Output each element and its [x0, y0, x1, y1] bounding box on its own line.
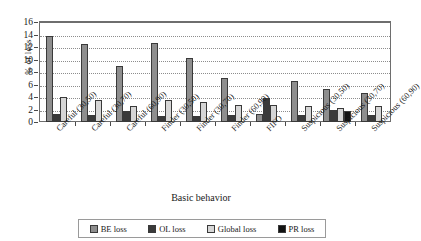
- bar: [256, 114, 263, 122]
- y-tick-mark: [34, 22, 38, 23]
- legend-label: OL loss: [159, 224, 185, 234]
- y-tick-mark: [34, 35, 38, 36]
- bar: [186, 58, 193, 122]
- y-tick-label: 10: [17, 55, 33, 65]
- y-tick-mark: [34, 72, 38, 73]
- y-axis-ticks: 0246810121416: [16, 15, 38, 128]
- x-axis-title: Basic behavior: [0, 192, 402, 203]
- y-tick-label: 4: [17, 92, 33, 102]
- bar: [330, 110, 337, 122]
- y-tick-mark: [34, 97, 38, 98]
- legend-swatch-icon: [90, 225, 98, 233]
- legend-item: PR loss: [278, 224, 315, 234]
- y-tick-mark: [34, 122, 38, 123]
- legend-item: Global loss: [207, 224, 257, 234]
- x-axis-labels: Careful (30,50)Careful (30,70)Careful (6…: [0, 124, 402, 190]
- y-tick-mark: [34, 60, 38, 61]
- legend-swatch-icon: [278, 225, 286, 233]
- bar-group: [40, 22, 75, 122]
- legend-label: Global loss: [218, 224, 257, 234]
- y-tick-mark: [34, 47, 38, 48]
- legend-swatch-icon: [148, 225, 156, 233]
- y-tick-label: 2: [17, 105, 33, 115]
- y-tick-label: 16: [17, 17, 33, 27]
- bar-group: [285, 22, 320, 122]
- y-tick-label: 8: [17, 67, 33, 77]
- legend-label: BE loss: [101, 224, 127, 234]
- y-tick-label: 12: [17, 42, 33, 52]
- y-tick-mark: [34, 110, 38, 111]
- legend-label: PR loss: [289, 224, 315, 234]
- y-tick-label: 6: [17, 80, 33, 90]
- y-tick-label: 14: [17, 30, 33, 40]
- bar: [291, 81, 298, 122]
- bar: [46, 36, 53, 122]
- y-tick-mark: [34, 85, 38, 86]
- legend-swatch-icon: [207, 225, 215, 233]
- chart-legend: BE lossOL lossGlobal lossPR loss: [78, 219, 326, 238]
- legend-item: OL loss: [148, 224, 185, 234]
- legend-item: BE loss: [90, 224, 127, 234]
